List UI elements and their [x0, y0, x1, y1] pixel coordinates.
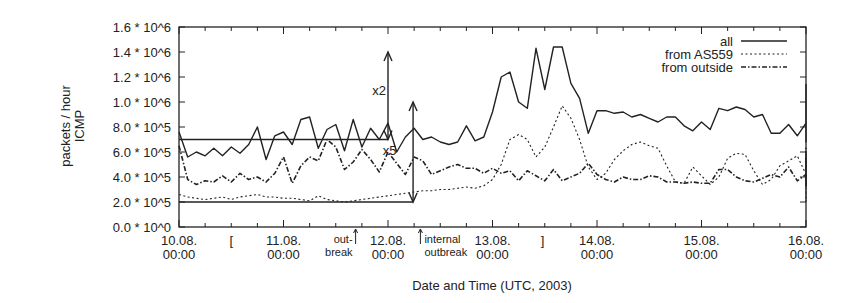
internal-outbreak-label: internal: [424, 233, 460, 245]
x-tick-label: 00:00: [581, 247, 614, 262]
x-axis-title: Date and Time (UTC, 2003): [412, 278, 572, 293]
outbreak-label: out-: [334, 233, 353, 245]
x-tick-label: 15.08.: [683, 233, 719, 248]
y-tick-label: 2.0 * 10^5: [113, 195, 171, 210]
y-tick-label: 8.0 * 10^5: [113, 120, 171, 135]
y-tick-label: 6.0 * 10^5: [113, 145, 171, 160]
bracket-close: ]: [541, 233, 545, 248]
x-tick-label: 16.08.: [788, 233, 824, 248]
y-tick-label: 1.0 * 10^6: [113, 95, 171, 110]
x2-arrow-label: x2: [372, 83, 386, 98]
legend: allfrom AS559from outside: [661, 34, 787, 75]
x-tick-label: 14.08.: [579, 233, 615, 248]
series-from-outside: [179, 140, 806, 186]
y-tick-label: 4.0 * 10^5: [113, 170, 171, 185]
x-tick-label: 00:00: [163, 247, 196, 262]
x-tick-label: 00:00: [372, 247, 405, 262]
legend-label: from outside: [661, 60, 733, 75]
series-from-as559: [179, 106, 806, 202]
y-tick-label: 1.2 * 10^6: [113, 70, 171, 85]
x-tick-label: 00:00: [790, 247, 823, 262]
y-tick-label: 1.6 * 10^6: [113, 20, 171, 35]
y-axis-title-line2: ICMP: [72, 110, 87, 143]
bracket-open: [: [229, 233, 233, 248]
x-tick-label: 11.08.: [266, 233, 301, 248]
internal-outbreak-label: outbreak: [424, 246, 467, 258]
x-tick-label: 12.08.: [370, 233, 406, 248]
x5-arrow-label: x5: [383, 143, 397, 158]
traffic-line-chart: packets / hour ICMP Date and Time (UTC, …: [0, 0, 865, 303]
x-tick-label: 00:00: [267, 247, 300, 262]
x-tick-label: 00:00: [476, 247, 509, 262]
outbreak-label: break: [325, 246, 353, 258]
y-axis-title-line1: packets / hour: [58, 85, 73, 167]
x-tick-label: 13.08.: [474, 233, 510, 248]
y-axis-title: packets / hour ICMP: [58, 85, 87, 167]
x-tick-label: 10.08.: [161, 233, 197, 248]
y-tick-label: 1.4 * 10^6: [113, 45, 171, 60]
x-tick-label: 00:00: [685, 247, 718, 262]
